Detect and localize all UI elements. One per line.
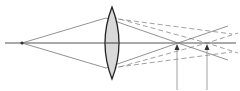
arrow-up-icon [205, 44, 210, 50]
light-ray [22, 18, 228, 60]
dashed-ray [112, 17, 238, 53]
light-ray [22, 26, 228, 68]
arrow-up-icon [175, 44, 180, 50]
dashed-ray [118, 52, 232, 67]
dashed-ray [112, 33, 238, 69]
point-source [20, 41, 23, 44]
dashed-ray [118, 19, 232, 34]
lens-ray-diagram [0, 0, 240, 91]
